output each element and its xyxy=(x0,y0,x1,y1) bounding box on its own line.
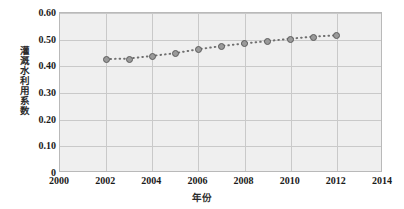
data-point xyxy=(195,46,202,53)
data-point xyxy=(126,56,133,63)
data-point xyxy=(149,53,156,60)
x-axis-tick-label: 2004 xyxy=(141,175,161,186)
x-axis-tick-label: 2000 xyxy=(49,175,69,186)
x-axis-tick-label: 2012 xyxy=(326,175,346,186)
series-points xyxy=(60,13,381,171)
data-point xyxy=(172,50,179,57)
x-axis-title: 年份 xyxy=(0,190,404,204)
data-point xyxy=(287,36,294,43)
x-axis-tick-label: 2010 xyxy=(280,175,300,186)
data-point xyxy=(264,38,271,45)
chart-container: 灌溉水利用系数 00.100.200.300.400.500.60 200020… xyxy=(0,0,404,209)
y-axis-tick-label: 0.60 xyxy=(24,7,56,18)
data-point xyxy=(103,56,110,63)
y-axis-tick-labels: 00.100.200.300.400.500.60 xyxy=(24,12,56,172)
x-axis-tick-label: 2014 xyxy=(372,175,392,186)
x-axis-tick-labels: 20002002200420062008201020122014 xyxy=(59,175,382,191)
y-axis-tick-label: 0.40 xyxy=(24,60,56,71)
x-axis-tick-label: 2006 xyxy=(187,175,207,186)
x-axis-tick-label: 2008 xyxy=(234,175,254,186)
x-axis-tick-label: 2002 xyxy=(95,175,115,186)
data-point xyxy=(333,32,340,39)
y-axis-tick-label: 0.30 xyxy=(24,87,56,98)
data-point xyxy=(218,43,225,50)
plot-area xyxy=(59,12,382,172)
data-point xyxy=(310,34,317,41)
data-point xyxy=(241,40,248,47)
y-axis-tick-label: 0.20 xyxy=(24,113,56,124)
y-axis-tick-label: 0.50 xyxy=(24,33,56,44)
y-axis-tick-label: 0.10 xyxy=(24,140,56,151)
